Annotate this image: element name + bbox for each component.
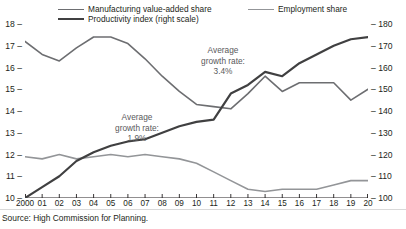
annotation-2-line-3: 3.4% [186,66,260,77]
legend-swatch-manufacturing-value-added-share [58,9,84,10]
chart-figure: Manufacturing value-added share Producti… [0,0,406,229]
left-axis-tick-13: 13 – [5,128,22,138]
left-axis-tick-18: 18 – [5,19,22,29]
right-axis-tick-100: – 100 [371,193,393,203]
legend-item-employment-share: Employment share [248,4,347,14]
x-axis-tick-07: 07 [140,199,149,208]
x-axis-tick-05: 05 [106,199,115,208]
annotation-2-line-1: Average [186,45,260,56]
x-axis-tick-14: 14 [261,199,270,208]
right-axis-tick-140: – 140 [371,106,393,116]
x-axis-tick-09: 09 [175,199,184,208]
left-axis-labels: 10 –11 –12 –13 –14 –15 –16 –17 –18 – [0,24,22,198]
annotation-1-line-1: Average [98,112,176,123]
right-axis-labels: – 100– 110– 120– 130– 140– 150– 160– 170… [371,24,406,198]
left-axis-tick-14: 14 – [5,106,22,116]
annotation-growth-rate-2: Average growth rate: 3.4% [186,45,260,77]
source-note: Source: High Commission for Planning. [2,213,148,223]
annotation-2-line-2: growth rate: [186,56,260,67]
right-axis-tick-110: – 110 [371,171,392,181]
x-axis-tick-15: 15 [278,199,287,208]
x-axis-tick-19: 19 [346,199,355,208]
chart-legend: Manufacturing value-added share Producti… [0,0,406,26]
x-axis-tick-16: 16 [295,199,304,208]
x-axis-tick-13: 13 [243,199,252,208]
left-axis-tick-17: 17 – [5,41,22,51]
legend-item-manufacturing-value-added-share: Manufacturing value-added share [58,4,212,14]
legend-label-productivity-index: Productivity index (right scale) [88,14,199,24]
legend-label-employment-share: Employment share [278,4,347,14]
right-axis-tick-170: – 170 [371,41,393,51]
right-axis-tick-130: – 130 [371,128,393,138]
x-axis-tick-04: 04 [89,199,98,208]
x-axis-tick-18: 18 [329,199,338,208]
left-axis-tick-16: 16 – [5,63,22,73]
footer-divider [0,209,406,210]
annotation-1-line-2: growth rate: [98,123,176,134]
x-axis-tick-2000: 2000 [16,199,34,208]
x-axis-tick-01: 01 [38,199,47,208]
x-axis-tick-11: 11 [209,199,218,208]
left-axis-tick-15: 15 – [5,84,22,94]
legend-swatch-employment-share [248,9,274,10]
right-axis-tick-180: – 180 [371,19,393,29]
annotation-1-line-3: 1.9% [98,133,176,144]
annotation-growth-rate-1: Average growth rate: 1.9% [98,112,176,144]
x-axis-tick-08: 08 [158,199,167,208]
legend-swatch-productivity-index [58,18,84,20]
right-axis-tick-150: – 150 [371,84,393,94]
x-axis-tick-03: 03 [72,199,81,208]
x-axis-tick-12: 12 [226,199,235,208]
left-axis-tick-12: 12 – [5,150,22,160]
legend-label-manufacturing-value-added-share: Manufacturing value-added share [88,4,212,14]
x-axis-tick-20: 20 [363,199,372,208]
x-axis-tick-10: 10 [192,199,201,208]
right-axis-tick-120: – 120 [371,150,393,160]
legend-item-productivity-index: Productivity index (right scale) [58,14,199,24]
right-axis-tick-160: – 160 [371,63,393,73]
left-axis-tick-11: 11 – [6,171,22,181]
x-axis-tick-06: 06 [123,199,132,208]
x-axis-tick-17: 17 [312,199,321,208]
x-axis-tick-02: 02 [55,199,64,208]
